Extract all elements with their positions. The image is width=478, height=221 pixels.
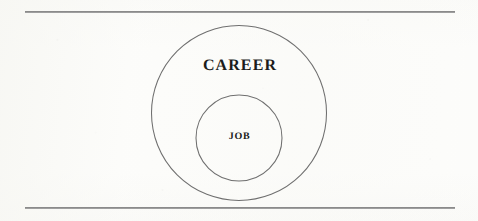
career-circle [152, 26, 327, 201]
career-label: CAREER [2, 57, 478, 75]
bottom-rule [25, 207, 455, 209]
diagram-page: CAREER JOB [0, 0, 478, 221]
nested-circles-diagram [0, 0, 478, 221]
job-label: JOB [1, 131, 478, 143]
